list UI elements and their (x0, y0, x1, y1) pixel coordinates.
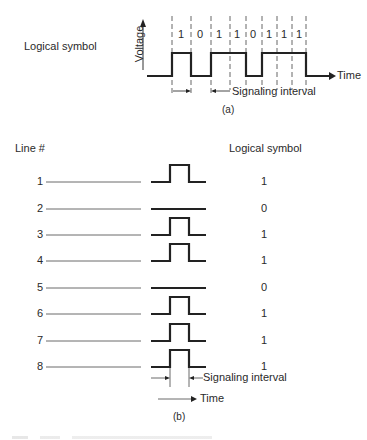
signaling-interval-label-b: Signaling interval (203, 371, 287, 383)
caption-b: (b) (173, 411, 185, 422)
logical-symbol-6: 1 (261, 307, 267, 319)
line-number-7: 7 (37, 334, 43, 346)
line-number-5: 5 (37, 281, 43, 293)
line-number-8: 8 (37, 360, 43, 372)
logical-symbol-7: 1 (261, 334, 267, 346)
logical-symbol-5: 0 (261, 281, 267, 293)
time-axis-label-b: Time (200, 392, 224, 404)
parallel-lines-diagram (0, 0, 367, 440)
line-number-3: 3 (37, 228, 43, 240)
logical-symbol-2: 0 (261, 202, 267, 214)
line-number-6: 6 (37, 307, 43, 319)
line-number-1: 1 (37, 175, 43, 187)
logical-symbol-4: 1 (261, 254, 267, 266)
cutoff-caption-remnant (12, 436, 212, 439)
logical-symbol-1: 1 (261, 175, 267, 187)
line-number-2: 2 (37, 202, 43, 214)
line-number-4: 4 (37, 254, 43, 266)
logical-symbol-3: 1 (261, 228, 267, 240)
